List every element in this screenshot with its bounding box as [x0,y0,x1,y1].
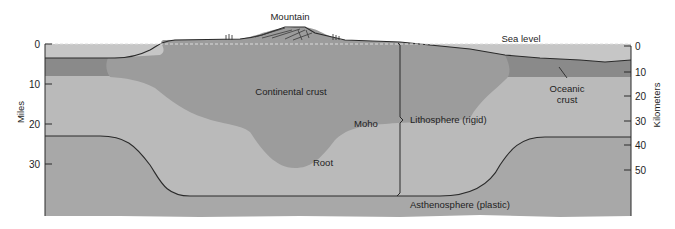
left-axis-tick-20: 20 [29,119,41,130]
moho-label: Moho [354,118,378,129]
continental-crust-label: Continental crust [255,86,327,97]
oceanic-crust-label-line2: crust [557,94,578,105]
right-axis-title: Kilometers [651,82,662,127]
right-axis-tick-30: 30 [635,116,647,127]
lithosphere-cross-section-diagram: 0 10 20 30 Miles 0 10 20 30 40 50 Kilome… [0,0,675,229]
right-axis-tick-50: 50 [635,165,647,176]
oceanic-crust-left [45,58,115,76]
left-axis-tick-10: 10 [29,79,41,90]
oceanic-crust-label-line1: Oceanic [550,83,585,94]
left-axis-tick-0: 0 [34,39,40,50]
root-label: Root [313,157,333,168]
sea-level-label: Sea level [501,33,540,44]
lithosphere-label: Lithosphere (rigid) [410,114,487,125]
left-axis-title: Miles [15,101,26,123]
right-axis-tick-20: 20 [635,91,647,102]
right-axis-tick-10: 10 [635,67,647,78]
right-axis-tick-40: 40 [635,140,647,151]
asthenosphere-label: Asthenosphere (plastic) [410,199,510,210]
mountain-label: Mountain [270,11,309,22]
right-axis-tick-0: 0 [635,41,641,52]
left-axis-tick-30: 30 [29,159,41,170]
